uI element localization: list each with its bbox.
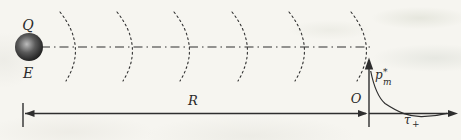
physics-diagram: Q E R O p * m τ +	[0, 0, 461, 140]
tau-label-base: τ	[404, 113, 411, 127]
distance-right-arrowhead-icon	[358, 110, 368, 117]
distance-left-arrowhead-icon	[25, 110, 35, 117]
scanned-figure-page: Q E R O p * m τ +	[0, 0, 461, 140]
field-label: E	[22, 65, 33, 81]
charge-label: Q	[22, 17, 34, 33]
distance-label: R	[187, 93, 198, 108]
time-axis-arrowhead-icon	[448, 110, 458, 117]
pulse-label-base: p	[375, 68, 383, 82]
origin-label: O	[351, 91, 362, 106]
tau-label-sub: +	[412, 119, 420, 129]
pulse-label-sup: *	[383, 67, 388, 77]
pulse-label-sub: m	[383, 77, 392, 87]
charge-sphere	[15, 33, 43, 61]
